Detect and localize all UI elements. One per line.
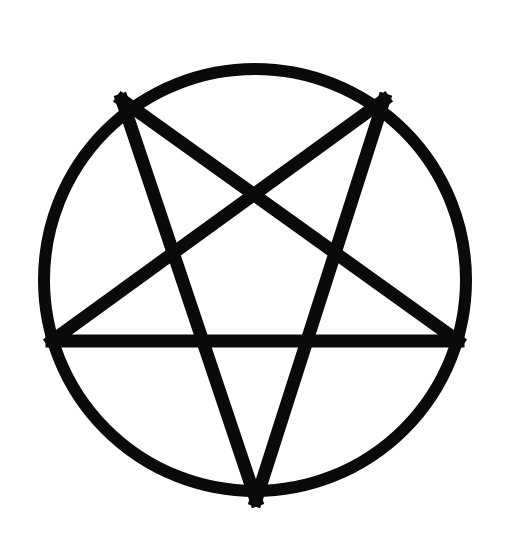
- pentagram-in-circle-icon: [0, 0, 514, 547]
- star-line-bottom-to-top-right: [256, 100, 384, 500]
- star-line-top-left-to-bottom: [122, 100, 256, 500]
- figure-canvas: Inverted pentagram inscribed in a circle: [0, 0, 514, 547]
- outer-circle: [44, 69, 466, 491]
